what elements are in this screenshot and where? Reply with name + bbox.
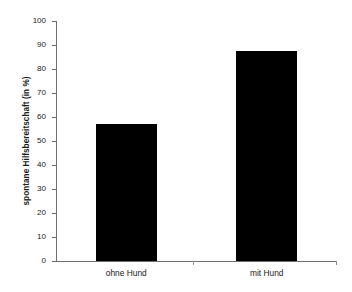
bar xyxy=(96,124,157,261)
y-axis-tick-label: 50 xyxy=(37,137,46,145)
y-axis-tick-label: 0 xyxy=(42,257,46,265)
y-axis-tick-label: 90 xyxy=(37,41,46,49)
y-axis-tick xyxy=(52,261,56,262)
x-axis-tick-label: ohne Hund xyxy=(106,269,147,277)
y-axis-title: spontane Hilfsbereitschaft (in %) xyxy=(20,21,34,261)
x-axis-end-tick xyxy=(336,261,337,265)
y-axis-tick xyxy=(52,189,56,190)
bar xyxy=(236,51,297,261)
y-axis-tick xyxy=(52,21,56,22)
y-axis-tick-label: 100 xyxy=(33,17,46,25)
y-axis-tick-label: 40 xyxy=(37,161,46,169)
y-axis-tick-label: 70 xyxy=(37,89,46,97)
y-axis-tick xyxy=(52,141,56,142)
plot-area: 0102030405060708090100 ohne Hundmit Hund xyxy=(56,21,337,261)
y-axis-tick-label: 80 xyxy=(37,65,46,73)
x-axis-tick-label: mit Hund xyxy=(250,269,284,277)
y-axis-tick xyxy=(52,117,56,118)
y-axis-tick xyxy=(52,165,56,166)
y-axis-tick xyxy=(52,237,56,238)
y-axis-tick-label: 30 xyxy=(37,185,46,193)
y-axis-tick xyxy=(52,93,56,94)
bar-chart-figure: spontane Hilfsbereitschaft (in %) 010203… xyxy=(0,0,352,292)
y-axis-tick-label: 20 xyxy=(37,209,46,217)
x-axis-mid-tick xyxy=(193,261,194,265)
y-axis-tick xyxy=(52,45,56,46)
x-axis-line xyxy=(56,261,337,262)
y-axis-tick-label: 10 xyxy=(37,233,46,241)
y-axis-tick xyxy=(52,213,56,214)
y-axis-tick xyxy=(52,69,56,70)
y-axis-tick-label: 60 xyxy=(37,113,46,121)
y-axis-line xyxy=(56,21,57,262)
